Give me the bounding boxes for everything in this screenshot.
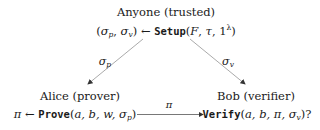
setup-output: (σp, σv) — [96, 24, 137, 38]
verify-function: Verify — [203, 108, 241, 120]
assign-arrow: ← — [137, 24, 154, 38]
prover-node-expression: π ← Prove(a, b, w, σp) — [14, 107, 136, 125]
arrow-setup-to-verifier — [190, 39, 245, 84]
prove-function: Prove — [38, 108, 70, 120]
arrow-setup-to-prover — [88, 39, 143, 84]
edge-label-sigma-v: σv — [222, 55, 234, 69]
setup-node-title: Anyone (trusted) — [117, 5, 215, 19]
edge-label-sigma-p: σp — [99, 55, 111, 69]
verifier-node-title: Bob (verifier) — [217, 89, 295, 103]
verifier-node-expression: Verify(a, b, π, σv)? — [203, 107, 312, 125]
edge-label-pi: π — [166, 99, 173, 110]
setup-function: Setup — [154, 25, 186, 37]
prover-node-title: Alice (prover) — [40, 89, 120, 103]
setup-node-expression: (σp, σv) ← Setup(F, τ, 1λ) — [96, 21, 236, 42]
